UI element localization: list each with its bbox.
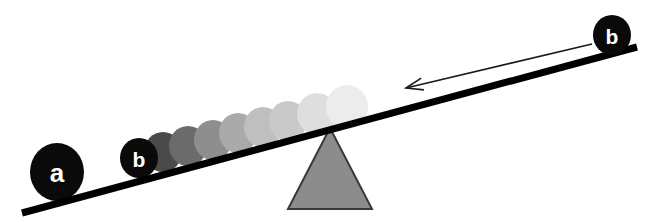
ball-mass-a-label: a bbox=[50, 158, 65, 188]
ball-mass-b-right: b bbox=[593, 15, 631, 55]
lever-diagram-figure: b a b bbox=[0, 0, 658, 223]
ball-mass-b-right-label: b bbox=[606, 25, 619, 48]
ball-mass-b-left: b bbox=[120, 138, 158, 178]
ball-mass-a: a bbox=[30, 143, 84, 201]
lever-diagram-canvas: b a b bbox=[0, 0, 658, 223]
ball-mass-b-left-label: b bbox=[133, 148, 146, 171]
